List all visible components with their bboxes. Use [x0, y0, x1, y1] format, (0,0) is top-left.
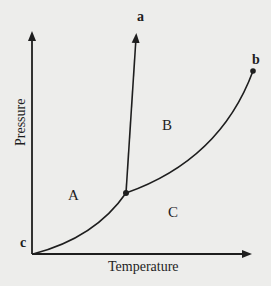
point-c-label: c [20, 235, 26, 251]
vaporization-curve [126, 71, 253, 193]
region-b-label: B [162, 117, 172, 134]
phase-diagram-canvas [0, 0, 271, 286]
x-axis-label: Temperature [108, 259, 179, 275]
region-a-label: A [68, 187, 79, 204]
triple-point [123, 190, 129, 196]
point-b-label: b [252, 52, 260, 68]
critical-point [250, 68, 256, 74]
fusion-line [126, 38, 136, 193]
sublimation-curve [33, 193, 126, 254]
y-axis-label: Pressure [13, 99, 29, 146]
region-c-label: C [168, 204, 178, 221]
point-a-label: a [137, 9, 144, 25]
